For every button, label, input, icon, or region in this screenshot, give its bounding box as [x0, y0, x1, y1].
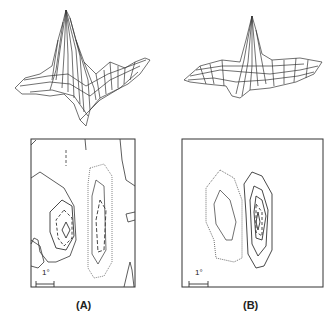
panel-label-b: (B): [243, 299, 258, 311]
contour-map-b: [182, 139, 323, 287]
figure-canvas: [0, 0, 335, 318]
contour-map-a: [31, 139, 135, 287]
contour-frame-b: [182, 139, 323, 287]
panel-label-a: (A): [76, 299, 91, 311]
surface-plot-b: [184, 16, 322, 98]
scale-bar-b: [189, 281, 208, 287]
surface-plot-a: [15, 10, 150, 126]
contour-frame-a: [31, 139, 135, 287]
scale-bar-label-a: 1°: [42, 268, 50, 277]
scale-bar-label-b: 1°: [195, 268, 203, 277]
scale-bar-a: [36, 281, 54, 287]
